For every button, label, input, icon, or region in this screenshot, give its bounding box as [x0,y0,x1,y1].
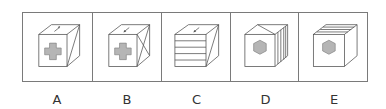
options-frame [22,12,368,82]
cube-d-icon [231,13,299,81]
cube-c-icon [162,13,230,81]
cube-b-icon [93,13,162,81]
option-label-c: C [162,91,231,109]
option-label-b: B [92,91,162,109]
option-d-cell[interactable] [231,13,300,81]
cube-e-icon [299,13,367,81]
option-a-cell[interactable] [23,13,93,81]
option-b-cell[interactable] [93,13,163,81]
option-label-e: E [300,91,368,109]
option-labels: A B C D E [22,91,368,109]
option-e-cell[interactable] [299,13,367,81]
option-c-cell[interactable] [162,13,231,81]
option-label-d: D [231,91,300,109]
cube-a-icon [23,13,92,81]
option-label-a: A [22,91,92,109]
